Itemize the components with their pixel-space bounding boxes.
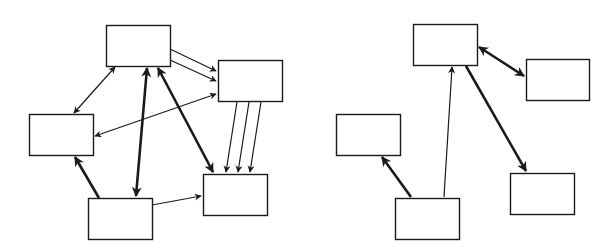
diagram-canvas <box>0 0 611 251</box>
directed-graphs-diagram <box>0 0 611 251</box>
node-box-H <box>337 115 401 156</box>
node-box-A <box>107 26 171 67</box>
arrow-J-H <box>382 157 411 197</box>
bidirectional-arrow-A-D <box>158 68 213 172</box>
arrow-B-D <box>226 102 237 172</box>
edges-layer <box>74 47 526 205</box>
node-box-I <box>511 174 575 215</box>
arrow-F-I <box>466 66 526 171</box>
arrow-J-F <box>444 67 452 197</box>
bidirectional-arrow-B-C <box>95 94 216 136</box>
arrow-A-B <box>170 49 216 71</box>
bidirectional-arrow-A-C <box>74 67 115 113</box>
nodes-layer <box>30 25 590 240</box>
node-box-D <box>204 175 268 216</box>
node-box-C <box>30 115 94 156</box>
node-box-E <box>89 199 153 240</box>
node-box-G <box>527 60 590 101</box>
arrow-B-D <box>238 102 249 172</box>
right-graph-nodes <box>337 25 590 240</box>
arrow-A-B <box>170 60 216 81</box>
arrow-E-D <box>152 196 201 205</box>
node-box-F <box>414 25 478 66</box>
arrow-B-D <box>250 102 261 172</box>
node-box-J <box>396 199 460 240</box>
bidirectional-arrow-F-G <box>479 47 524 76</box>
node-box-B <box>219 61 283 102</box>
bidirectional-arrow-A-E <box>136 68 147 196</box>
arrow-E-C <box>75 157 99 198</box>
right-graph-edges <box>382 47 526 197</box>
